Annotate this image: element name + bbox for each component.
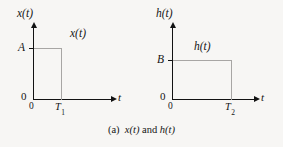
origin-label-x-right: 0 [168, 102, 173, 112]
pulse-width-label-left: T1 [55, 102, 65, 115]
x-axis-line-right [172, 99, 255, 100]
amplitude-label-right: B [157, 54, 164, 66]
plot-h-of-t: h(t) h(t) B 0 0 T2 t [139, 0, 283, 120]
plot-x-of-t: x(t) x(t) A 0 0 T1 t [0, 0, 140, 120]
pulse-width-subscript-left: 1 [61, 108, 65, 117]
pulse-top-edge-left [34, 48, 62, 49]
signal-annotation-left: x(t) [70, 28, 86, 40]
pulse-width-subscript-right: 2 [231, 108, 235, 117]
y-axis-label-left: x(t) [17, 8, 33, 20]
pulse-width-label-right: T2 [225, 102, 235, 115]
y-axis-label-right: h(t) [156, 8, 173, 20]
pulse-width-symbol-right: T [225, 101, 231, 112]
origin-label-y-right: 0 [160, 91, 166, 102]
pulse-falling-edge-right [231, 60, 232, 100]
caption-signal-1: x(t) [125, 124, 140, 135]
x-axis-line-left [33, 99, 112, 100]
figure-caption: (a) x(t) and h(t) [0, 124, 283, 137]
x-axis-arrowhead-left [111, 96, 117, 102]
origin-label-y-left: 0 [21, 91, 27, 102]
pulse-top-edge-right [173, 60, 232, 61]
caption-index: (a) [108, 124, 120, 135]
pulse-falling-edge-left [61, 48, 62, 100]
y-axis-arrowhead-right [170, 22, 176, 28]
x-axis-label-left: t [118, 92, 121, 103]
y-axis-line-left [33, 28, 34, 100]
x-axis-arrowhead-right [254, 96, 260, 102]
caption-signal-2: h(t) [160, 124, 175, 135]
pulse-width-symbol-left: T [55, 101, 61, 112]
y-axis-arrowhead-left [31, 22, 37, 28]
caption-conjunction: and [142, 124, 157, 135]
amplitude-label-left: A [18, 42, 25, 54]
y-axis-line-right [172, 28, 173, 100]
x-axis-label-right: t [261, 92, 264, 103]
origin-label-x-left: 0 [29, 102, 34, 112]
signal-figure: x(t) x(t) A 0 0 T1 t h(t) h(t) B 0 0 T2 … [0, 0, 283, 147]
signal-annotation-right: h(t) [194, 41, 211, 53]
